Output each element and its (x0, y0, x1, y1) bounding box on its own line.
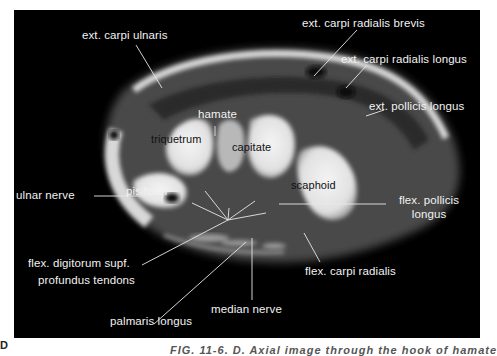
label-scaphoid: scaphoid (291, 180, 336, 191)
label-ext-carpi-ulnaris: ext. carpi ulnaris (82, 30, 168, 42)
label-flex-carpi-radialis: flex. carpi radialis (305, 266, 396, 278)
label-flex-pollicis-longus-2: longus (389, 209, 469, 221)
label-pisiform: pisiform (126, 186, 167, 198)
label-palmaris-longus: palmaris longus (110, 316, 192, 328)
label-ext-carpi-radialis-longus: ext. carpi radialis longus (341, 54, 467, 66)
mri-image-panel: ext. carpi ulnaris ext. carpi radialis b… (14, 10, 480, 338)
label-median-nerve: median nerve (211, 304, 282, 316)
panel-letter: D (0, 339, 8, 351)
label-hamate: hamate (198, 109, 237, 121)
label-ulnar-nerve: ulnar nerve (16, 190, 75, 202)
label-profundus-tendons: profundus tendons (38, 275, 135, 287)
label-capitate: capitate (232, 142, 271, 153)
label-triquetrum: triquetrum (151, 134, 202, 145)
figure-caption: FIG. 11-6. D. Axial image through the ho… (170, 344, 497, 356)
label-ext-carpi-radialis-brevis: ext. carpi radialis brevis (302, 18, 425, 30)
label-flex-pollicis-longus-1: flex. pollicis (389, 195, 469, 207)
label-flex-digitorum-supf: flex. digitorum supf. (28, 258, 130, 270)
label-ext-pollicis-longus: ext. pollicis longus (369, 101, 464, 113)
